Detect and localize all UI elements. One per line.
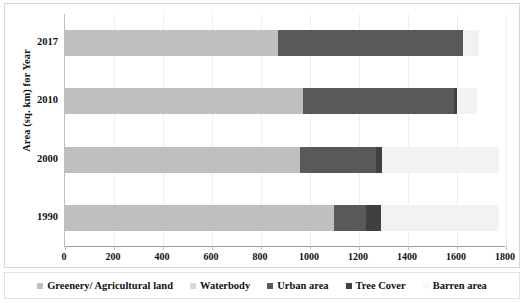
legend-label: Greenery/ Agricultural land — [47, 280, 173, 291]
legend-swatch-icon — [37, 283, 43, 289]
x-tick-label-600: 600 — [191, 251, 231, 262]
chart-container: Area (sq. km) for Year 2017201020001990 … — [0, 0, 525, 303]
bar-2000 — [65, 147, 499, 173]
bar-2017 — [65, 30, 479, 56]
legend-label: Waterbody — [200, 280, 250, 291]
x-tick-label-200: 200 — [93, 251, 133, 262]
legend-swatch-icon — [190, 283, 196, 289]
bar-segment — [366, 205, 381, 231]
x-axis-tick — [310, 246, 311, 250]
x-axis-tick — [261, 246, 262, 250]
bar-segment — [65, 147, 300, 173]
x-tick-label-1800: 1800 — [485, 251, 525, 262]
category-label-2017: 2017 — [6, 36, 58, 47]
bar-segment — [457, 88, 477, 114]
legend-item[interactable]: Waterbody — [190, 280, 250, 291]
bar-segment — [65, 30, 278, 56]
legend-item[interactable]: Barren area — [423, 280, 487, 291]
x-axis-tick — [212, 246, 213, 250]
bar-2010 — [65, 88, 477, 114]
bar-1990 — [65, 205, 499, 231]
gridline — [506, 14, 507, 246]
x-tick-label-400: 400 — [142, 251, 182, 262]
legend-label: Urban area — [277, 280, 328, 291]
x-axis-tick — [65, 246, 66, 250]
bar-segment — [278, 30, 463, 56]
bar-segment — [381, 205, 499, 231]
legend-swatch-icon — [267, 283, 273, 289]
category-label-2010: 2010 — [6, 94, 58, 105]
x-tick-label-1400: 1400 — [387, 251, 427, 262]
bar-segment — [300, 147, 376, 173]
category-label-1990: 1990 — [6, 211, 58, 222]
legend-item[interactable]: Greenery/ Agricultural land — [37, 280, 173, 291]
bar-segment — [382, 147, 499, 173]
x-axis-tick — [408, 246, 409, 250]
legend-item[interactable]: Urban area — [267, 280, 328, 291]
bar-segment — [65, 205, 334, 231]
x-tick-label-1200: 1200 — [338, 251, 378, 262]
x-tick-label-1600: 1600 — [436, 251, 476, 262]
x-axis-tick — [457, 246, 458, 250]
legend-label: Barren area — [433, 280, 487, 291]
bar-segment — [65, 88, 303, 114]
x-tick-label-800: 800 — [240, 251, 280, 262]
x-axis-tick — [359, 246, 360, 250]
x-tick-label-1000: 1000 — [289, 251, 329, 262]
bar-segment — [303, 88, 454, 114]
x-axis-tick — [163, 246, 164, 250]
bar-segment — [334, 205, 366, 231]
plot-area — [64, 14, 505, 247]
legend-swatch-icon — [423, 283, 429, 289]
legend-swatch-icon — [346, 283, 352, 289]
legend-label: Tree Cover — [356, 280, 406, 291]
x-tick-label-0: 0 — [44, 251, 84, 262]
legend-item[interactable]: Tree Cover — [346, 280, 406, 291]
x-axis-tick — [114, 246, 115, 250]
category-label-2000: 2000 — [6, 153, 58, 164]
chart-legend: Greenery/ Agricultural landWaterbodyUrba… — [4, 272, 520, 299]
x-axis-tick — [506, 246, 507, 250]
bar-segment — [463, 30, 479, 56]
